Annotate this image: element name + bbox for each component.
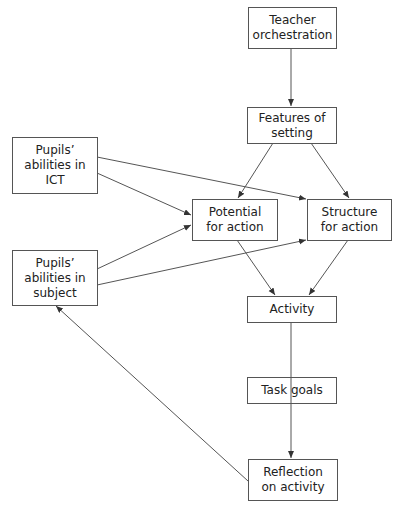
node-activity: Activity <box>247 296 337 323</box>
edge-features-potential <box>238 143 273 198</box>
edge-structure-activity <box>309 240 348 295</box>
node-label: Reflection on activity <box>262 465 325 495</box>
node-label: Features of setting <box>259 111 326 141</box>
node-pupils-abilities-subject: Pupils’ abilities in subject <box>12 250 98 306</box>
node-label: Teacher orchestration <box>253 13 333 43</box>
node-label: Task goals <box>261 383 323 398</box>
node-features-of-setting: Features of setting <box>247 107 337 144</box>
edge-ict-potential <box>97 173 191 215</box>
diagram-canvas: Teacher orchestration Features of settin… <box>0 0 401 512</box>
node-label: Activity <box>270 302 315 317</box>
node-structure-for-action: Structure for action <box>307 199 392 241</box>
node-pupils-abilities-ict: Pupils’ abilities in ICT <box>12 137 98 194</box>
edge-subject-potential <box>97 225 191 269</box>
edge-ict-structure <box>97 157 306 199</box>
node-label: Potential for action <box>206 205 263 235</box>
edge-subject-structure <box>97 240 306 285</box>
node-teacher-orchestration: Teacher orchestration <box>248 7 337 49</box>
edge-features-structure <box>311 143 349 198</box>
node-label: Structure for action <box>321 205 378 235</box>
node-label: Pupils’ abilities in ICT <box>24 143 85 188</box>
node-reflection-on-activity: Reflection on activity <box>248 459 338 501</box>
node-task-goals: Task goals <box>247 377 337 404</box>
node-label: Pupils’ abilities in subject <box>24 256 85 301</box>
edge-reflection-subject <box>56 306 248 481</box>
node-potential-for-action: Potential for action <box>192 199 278 241</box>
